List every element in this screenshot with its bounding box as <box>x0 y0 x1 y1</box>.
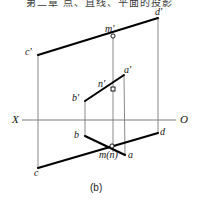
point-label-m-prime: m' <box>105 24 114 34</box>
figure-caption: (b) <box>90 182 102 193</box>
axis-label-x: X <box>12 113 19 125</box>
point-label-mn: m(n) <box>99 150 118 160</box>
point-label-n-prime: n' <box>98 79 105 89</box>
plane-and-line-edges <box>38 18 158 168</box>
point-label-c: c <box>34 168 38 178</box>
point-label-b: b <box>74 130 79 140</box>
point-marker-n-prime <box>111 87 115 91</box>
point-marker-m-prime <box>111 34 115 38</box>
point-label-a: a <box>128 150 133 160</box>
descriptive-geometry-figure <box>0 0 199 200</box>
axis-label-o: O <box>180 113 188 125</box>
point-label-d-prime: d' <box>155 7 162 17</box>
c-d <box>38 133 158 168</box>
point-label-a-prime: a' <box>124 65 131 75</box>
point-markers <box>110 34 115 148</box>
point-label-c-prime: c' <box>25 47 32 57</box>
point-marker-mn <box>110 144 114 148</box>
cprime-dprime <box>38 18 158 55</box>
point-label-b-prime: b' <box>72 93 79 103</box>
point-label-d: d <box>160 127 165 137</box>
